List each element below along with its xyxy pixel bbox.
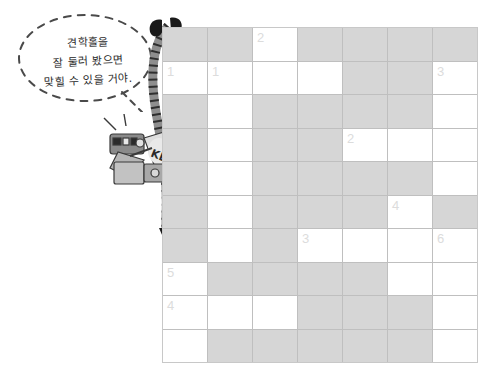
crossword-cell-r7c7[interactable]: 6 (433, 229, 477, 262)
cell-number: 3 (437, 64, 444, 80)
cell-number: 1 (167, 64, 174, 80)
crossword-cell-r10c5[interactable] (343, 330, 387, 363)
crossword-cell-r6c3[interactable] (253, 196, 297, 229)
crossword-cell-r4c1[interactable] (163, 129, 207, 162)
crossword-cell-r4c4[interactable] (298, 129, 342, 162)
crossword-cell-r10c1[interactable] (163, 330, 207, 363)
crossword-cell-r5c5[interactable] (343, 162, 387, 195)
crossword-cell-r3c1[interactable] (163, 95, 207, 128)
crossword-cell-r4c7[interactable] (433, 129, 477, 162)
crossword-cell-r4c2[interactable] (208, 129, 252, 162)
crossword-cell-r5c3[interactable] (253, 162, 297, 195)
cell-number: 4 (167, 298, 174, 314)
crossword-cell-r5c2[interactable] (208, 162, 252, 195)
crossword-cell-r5c7[interactable] (433, 162, 477, 195)
hint-speech-bubble: 견학홀을 잘 둘러 봤으면 맞힐 수 있을 거야. (14, 8, 162, 112)
crossword-cell-r10c7[interactable] (433, 330, 477, 363)
crossword-cell-r2c6[interactable] (388, 62, 432, 95)
crossword-cell-r8c1[interactable]: 5 (163, 263, 207, 296)
crossword-cell-r6c4[interactable] (298, 196, 342, 229)
cell-number: 3 (302, 231, 309, 247)
crossword-cell-r6c6[interactable]: 4 (388, 196, 432, 229)
crossword-cell-r10c6[interactable] (388, 330, 432, 363)
crossword-cells[interactable]: 2113243654 (162, 27, 478, 363)
crossword-cell-r3c2[interactable] (208, 95, 252, 128)
cell-number: 1 (212, 64, 219, 80)
crossword-cell-r3c5[interactable] (343, 95, 387, 128)
crossword-cell-r7c5[interactable] (343, 229, 387, 262)
crossword-cell-r2c7[interactable]: 3 (433, 62, 477, 95)
cell-number: 5 (167, 265, 174, 281)
crossword-cell-r1c5[interactable] (343, 28, 387, 61)
crossword-cell-r10c2[interactable] (208, 330, 252, 363)
cell-number: 6 (437, 231, 444, 247)
crossword-cell-r8c7[interactable] (433, 263, 477, 296)
cell-number: 4 (392, 198, 399, 214)
crossword-cell-r6c5[interactable] (343, 196, 387, 229)
crossword-cell-r3c6[interactable] (388, 95, 432, 128)
crossword-cell-r8c2[interactable] (208, 263, 252, 296)
crossword-cell-r3c3[interactable] (253, 95, 297, 128)
crossword-grid[interactable]: 2113243654 (162, 27, 478, 363)
crossword-cell-r5c4[interactable] (298, 162, 342, 195)
crossword-cell-r9c1[interactable]: 4 (163, 296, 207, 329)
cell-number: 2 (257, 30, 264, 46)
crossword-cell-r8c4[interactable] (298, 263, 342, 296)
speech-bubble-outline (14, 8, 162, 112)
crossword-cell-r7c3[interactable] (253, 229, 297, 262)
crossword-cell-r2c3[interactable] (253, 62, 297, 95)
crossword-cell-r9c6[interactable] (388, 296, 432, 329)
crossword-cell-r10c4[interactable] (298, 330, 342, 363)
crossword-cell-r7c4[interactable]: 3 (298, 229, 342, 262)
crossword-cell-r5c1[interactable] (163, 162, 207, 195)
crossword-cell-r2c5[interactable] (343, 62, 387, 95)
crossword-cell-r1c2[interactable] (208, 28, 252, 61)
crossword-cell-r8c6[interactable] (388, 263, 432, 296)
crossword-cell-r7c2[interactable] (208, 229, 252, 262)
crossword-cell-r6c1[interactable] (163, 196, 207, 229)
crossword-cell-r3c4[interactable] (298, 95, 342, 128)
crossword-cell-r9c3[interactable] (253, 296, 297, 329)
crossword-cell-r8c3[interactable] (253, 263, 297, 296)
crossword-cell-r4c3[interactable] (253, 129, 297, 162)
crossword-cell-r9c2[interactable] (208, 296, 252, 329)
crossword-cell-r9c4[interactable] (298, 296, 342, 329)
crossword-cell-r2c2[interactable]: 1 (208, 62, 252, 95)
crossword-cell-r6c2[interactable] (208, 196, 252, 229)
crossword-cell-r1c7[interactable] (433, 28, 477, 61)
crossword-cell-r7c1[interactable] (163, 229, 207, 262)
crossword-cell-r3c7[interactable] (433, 95, 477, 128)
crossword-cell-r1c4[interactable] (298, 28, 342, 61)
crossword-cell-r1c3[interactable]: 2 (253, 28, 297, 61)
crossword-cell-r5c6[interactable] (388, 162, 432, 195)
crossword-cell-r9c7[interactable] (433, 296, 477, 329)
crossword-cell-r4c6[interactable] (388, 129, 432, 162)
crossword-cell-r8c5[interactable] (343, 263, 387, 296)
puzzle-page: 견학홀을 잘 둘러 봤으면 맞힐 수 있을 거야. (0, 0, 488, 379)
cell-number: 2 (347, 131, 354, 147)
crossword-cell-r2c1[interactable]: 1 (163, 62, 207, 95)
crossword-cell-r9c5[interactable] (343, 296, 387, 329)
crossword-cell-r1c1[interactable] (163, 28, 207, 61)
crossword-cell-r7c6[interactable] (388, 229, 432, 262)
crossword-cell-r6c7[interactable] (433, 196, 477, 229)
crossword-cell-r1c6[interactable] (388, 28, 432, 61)
crossword-cell-r4c5[interactable]: 2 (343, 129, 387, 162)
crossword-cell-r2c4[interactable] (298, 62, 342, 95)
crossword-cell-r10c3[interactable] (253, 330, 297, 363)
